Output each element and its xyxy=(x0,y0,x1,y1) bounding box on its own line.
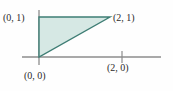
vertex-label-0-0: (0, 0) xyxy=(24,70,46,81)
coordinate-plane-figure: (0, 1) (2, 1) (0, 0) (2, 0) xyxy=(0,0,173,91)
axis-label-2-0: (2, 0) xyxy=(107,62,129,73)
triangle-region xyxy=(39,17,110,57)
vertex-label-0-1: (0, 1) xyxy=(3,12,25,23)
vertex-label-2-1: (2, 1) xyxy=(113,12,135,23)
